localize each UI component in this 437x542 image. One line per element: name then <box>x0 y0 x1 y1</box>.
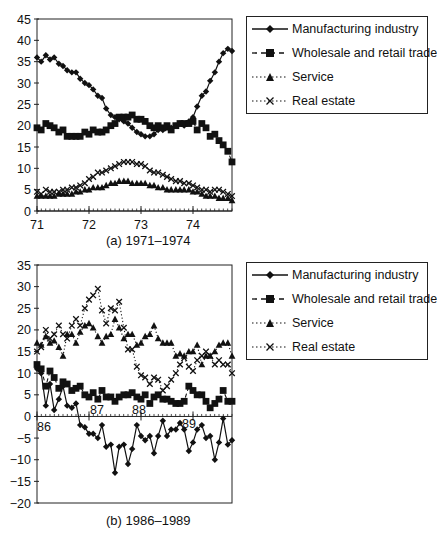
y-tick-label: −20 <box>10 497 31 511</box>
square-marker <box>181 398 188 405</box>
square-marker <box>229 398 236 405</box>
legend-item-manufacturing: Manufacturing industry <box>247 17 427 41</box>
square-marker <box>142 391 149 398</box>
y-tick-label: 45 <box>17 13 31 27</box>
diamond-marker <box>173 426 179 432</box>
series-service <box>34 315 236 367</box>
square-marker <box>90 389 97 396</box>
square-dashed-line-icon <box>251 47 289 59</box>
diamond-marker <box>51 407 57 413</box>
y-tick-label: 25 <box>17 302 31 316</box>
x-dotted-line-icon <box>251 95 289 107</box>
x-marker <box>121 325 127 331</box>
triangle-marker <box>129 331 136 337</box>
square-marker <box>203 124 210 131</box>
triangle-marker <box>73 339 80 345</box>
triangle-marker <box>151 322 158 328</box>
square-marker <box>77 383 84 390</box>
diamond-marker <box>186 448 192 454</box>
diamond-marker <box>112 470 118 476</box>
x-marker <box>51 331 57 337</box>
y-tick-label: 10 <box>17 162 31 176</box>
x-marker <box>103 321 109 327</box>
chart-b-plot: −20−15−10−50510152025303586878889 <box>0 255 240 515</box>
x-marker <box>134 364 140 370</box>
y-tick-label: 5 <box>24 388 31 402</box>
diamond-marker <box>99 422 105 428</box>
square-marker <box>146 400 153 407</box>
y-tick-label: 35 <box>17 259 31 273</box>
square-marker <box>198 391 205 398</box>
diamond-marker <box>212 69 218 75</box>
x-marker <box>69 323 75 329</box>
triangle-marker <box>224 339 231 345</box>
square-marker <box>64 381 71 388</box>
diamond-marker <box>155 433 161 439</box>
series-real-estate <box>34 286 235 393</box>
x-marker <box>164 383 170 389</box>
x-marker <box>95 286 101 292</box>
triangle-marker <box>60 352 67 358</box>
x-marker <box>99 308 105 314</box>
triangle-marker <box>155 335 162 341</box>
triangle-marker <box>138 339 145 345</box>
x-tick-label: 72 <box>82 218 96 230</box>
legend-label: Service <box>292 70 334 84</box>
square-marker <box>216 396 223 403</box>
square-marker <box>60 127 67 134</box>
y-tick-label: 20 <box>17 323 31 337</box>
diamond-marker <box>216 439 222 445</box>
diamond-marker <box>194 103 200 109</box>
square-dashed-line-icon <box>251 293 289 305</box>
y-tick-label: −10 <box>10 453 31 467</box>
x-tick-label: 86 <box>37 420 51 434</box>
legend-label: Real estate <box>292 340 355 354</box>
square-marker <box>38 365 45 372</box>
x-marker <box>82 305 88 311</box>
x-marker <box>56 323 62 329</box>
y-tick-label: −5 <box>17 432 31 446</box>
triangle-marker <box>194 341 201 347</box>
chart-a-plot: 05101520253035404571727374 <box>0 0 240 230</box>
legend-item-service: Service <box>247 65 427 89</box>
square-marker <box>229 159 236 166</box>
y-tick-label: 5 <box>24 183 31 197</box>
triangle-marker <box>159 184 166 190</box>
x-tick-label: 88 <box>132 403 146 417</box>
diamond-marker <box>43 402 49 408</box>
square-marker <box>55 385 62 392</box>
triangle-marker <box>229 352 236 358</box>
x-marker <box>168 377 174 383</box>
x-tick-label: 87 <box>90 403 104 417</box>
y-tick-label: 15 <box>17 141 31 155</box>
y-tick-label: 0 <box>24 410 31 424</box>
diamond-solid-line-icon <box>251 269 289 281</box>
diamond-marker <box>134 422 140 428</box>
triangle-marker <box>107 331 114 337</box>
diamond-marker <box>207 78 213 84</box>
x-marker <box>90 292 96 298</box>
triangle-dotted-line-icon <box>251 71 289 83</box>
y-tick-label: −15 <box>10 475 31 489</box>
square-marker <box>220 387 227 394</box>
square-marker <box>190 118 197 125</box>
x-marker <box>116 299 122 305</box>
triangle-marker <box>168 339 175 345</box>
legend-label: Service <box>292 316 334 330</box>
y-tick-label: 25 <box>17 98 31 112</box>
x-tick-label: 71 <box>30 218 44 230</box>
diamond-marker <box>160 418 166 424</box>
diamond-marker <box>56 396 62 402</box>
legend-item-wholesale: Wholesale and retail trade <box>247 41 427 65</box>
chart-b-legend: Manufacturing industry Wholesale and ret… <box>246 262 428 360</box>
triangle-marker <box>146 331 153 337</box>
triangle-marker <box>86 320 93 326</box>
x-marker <box>147 381 153 387</box>
triangle-marker <box>94 333 101 339</box>
diamond-marker <box>190 439 196 445</box>
chart-a-legend: Manufacturing industry Wholesale and ret… <box>246 16 428 114</box>
legend-label: Wholesale and retail trade <box>292 46 437 60</box>
chart-a-caption: (a) 1971–1974 <box>106 233 191 248</box>
series-wholesale-and-retail-trade <box>34 112 236 166</box>
legend-label: Wholesale and retail trade <box>292 292 437 306</box>
